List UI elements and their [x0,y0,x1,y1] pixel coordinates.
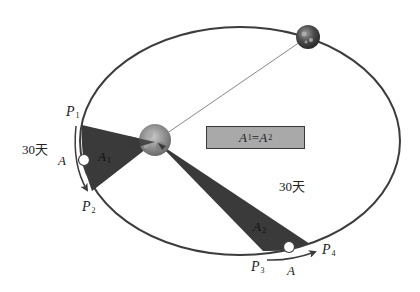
area-a2-wedge [158,143,310,251]
label-a1: A1 [98,150,111,165]
eq-rhs-sub: 2 [268,133,272,142]
sun-earth-line [160,42,300,138]
planet-marker-bottom [284,242,295,253]
equal-areas-box: A1=A2 [206,126,305,149]
label-p2: P2 [82,200,96,215]
label-planet-left: A [58,154,66,167]
label-p4: P4 [322,243,336,258]
planet-marker-left [79,155,90,166]
label-a2: A2 [253,220,266,235]
duration-left: 30天 [22,143,48,156]
planet-icon [296,25,320,49]
label-p1: P1 [66,105,80,120]
label-p3: P3 [251,260,265,275]
eq-rhs: A [259,130,267,146]
kepler-diagram: A1=A2 P1 P2 P3 P4 A1 A2 A A 30天 30天 [0,0,420,292]
duration-right: 30天 [279,180,305,193]
eq-lhs: A [239,130,247,146]
label-planet-bottom: A [287,264,295,277]
